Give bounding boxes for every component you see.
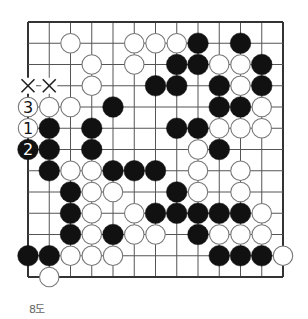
- white-stone: [82, 246, 101, 265]
- white-stone: [61, 34, 80, 53]
- black-stone: [103, 97, 124, 118]
- black-stone: [18, 245, 39, 266]
- black-stone: [209, 75, 230, 96]
- white-stone: [61, 246, 80, 265]
- black-stone: [251, 245, 272, 266]
- black-stone: [188, 224, 209, 245]
- black-stone: [251, 54, 272, 75]
- black-stone: [188, 33, 209, 54]
- white-stone: [125, 34, 144, 53]
- black-stone: [103, 160, 124, 181]
- white-stone: [231, 55, 250, 74]
- white-stone: [252, 119, 271, 138]
- black-stone: [39, 245, 60, 266]
- black-stone: [166, 182, 187, 203]
- white-stone: [82, 55, 101, 74]
- white-stone: [210, 119, 229, 138]
- white-stone: [125, 225, 144, 244]
- white-stone: [252, 225, 271, 244]
- white-stone: [231, 119, 250, 138]
- move-number-label: 1: [23, 119, 33, 138]
- white-stone: [231, 161, 250, 180]
- black-stone: [103, 224, 124, 245]
- white-stone: [61, 97, 80, 116]
- black-stone: [230, 97, 251, 118]
- white-stone: [40, 267, 59, 286]
- white-stone: [252, 204, 271, 223]
- black-stone: [188, 54, 209, 75]
- black-stone: [166, 118, 187, 139]
- black-stone: [209, 245, 230, 266]
- white-stone: [231, 182, 250, 201]
- white-stone: [103, 246, 122, 265]
- black-stone: [230, 203, 251, 224]
- black-stone: [251, 75, 272, 96]
- black-stone: [60, 224, 81, 245]
- move-number-label: 2: [23, 140, 33, 159]
- white-stone: [82, 225, 101, 244]
- black-stone: [188, 118, 209, 139]
- white-stone: [82, 204, 101, 223]
- black-stone: [209, 139, 230, 160]
- black-stone: [81, 118, 102, 139]
- diagram-caption: 8도: [29, 300, 45, 316]
- go-board: 312: [0, 0, 308, 319]
- black-stone: [145, 160, 166, 181]
- black-stone: [230, 245, 251, 266]
- white-stone: [82, 182, 101, 201]
- white-stone: [252, 97, 271, 116]
- white-stone: [188, 140, 207, 159]
- move-number-label: 3: [23, 98, 33, 117]
- white-stone: [167, 34, 186, 53]
- white-stone: [273, 246, 292, 265]
- white-stone: [210, 55, 229, 74]
- white-stone: [125, 204, 144, 223]
- white-stone: [188, 161, 207, 180]
- white-stone: [103, 182, 122, 201]
- black-stone: [209, 203, 230, 224]
- white-stone: [146, 225, 165, 244]
- black-stone: [166, 54, 187, 75]
- black-stone: [188, 203, 209, 224]
- white-stone: [188, 182, 207, 201]
- black-stone: [39, 160, 60, 181]
- white-stone: [61, 161, 80, 180]
- black-stone: [124, 160, 145, 181]
- white-stone: [40, 97, 59, 116]
- white-stone: [82, 161, 101, 180]
- black-stone: [39, 139, 60, 160]
- black-stone: [145, 203, 166, 224]
- black-stone: [209, 97, 230, 118]
- white-stone: [125, 55, 144, 74]
- black-stone: [60, 203, 81, 224]
- black-stone: [60, 182, 81, 203]
- black-stone: [145, 75, 166, 96]
- black-stone: [39, 118, 60, 139]
- white-stone: [146, 34, 165, 53]
- white-stone: [231, 225, 250, 244]
- black-stone: [166, 203, 187, 224]
- white-stone: [82, 76, 101, 95]
- black-stone: [230, 33, 251, 54]
- white-stone: [231, 76, 250, 95]
- white-stone: [210, 225, 229, 244]
- black-stone: [81, 139, 102, 160]
- black-stone: [166, 75, 187, 96]
